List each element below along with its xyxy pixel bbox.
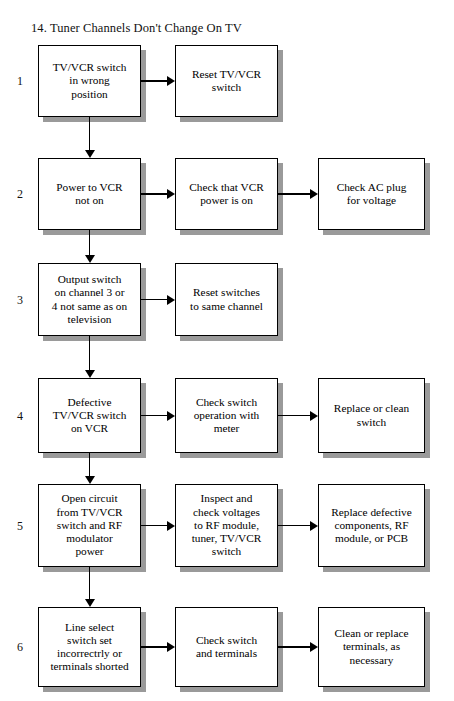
arrow-head-right — [167, 642, 175, 652]
arrow-connector-horizontal — [141, 80, 168, 82]
remedy-box-label: Clean or replace terminals, as necessary — [331, 627, 411, 667]
check-box-label: Reset switches to same channel — [187, 286, 266, 312]
arrow-connector-vertical — [89, 336, 91, 371]
symptom-box: Open circuit from TV/VCR switch and RF m… — [38, 484, 141, 567]
symptom-box: Defective TV/VCR switch on VCR — [38, 378, 141, 453]
check-box-label: Check that VCR power is on — [186, 181, 266, 207]
remedy-box: Replace defective components, RF module,… — [318, 484, 425, 567]
check-box: Reset switches to same channel — [175, 263, 278, 336]
arrow-head-right — [310, 411, 318, 421]
symptom-box: TV/VCR switch in wrong position — [38, 45, 141, 117]
troubleshooting-flowchart: 14. Tuner Channels Don't Change On TV 1T… — [0, 0, 454, 701]
check-box: Check switch operation with meter — [175, 378, 278, 453]
arrow-head-right — [167, 411, 175, 421]
arrow-head-right — [167, 76, 175, 86]
symptom-box: Output switch on channel 3 or 4 not same… — [38, 263, 141, 336]
symptom-box-label: Power to VCR not on — [53, 181, 125, 207]
row-number-4: 4 — [12, 410, 28, 422]
arrow-connector-vertical — [89, 117, 91, 151]
symptom-box: Power to VCR not on — [38, 158, 141, 230]
arrow-head-down — [85, 599, 95, 607]
arrow-head-right — [167, 521, 175, 531]
arrow-head-right — [310, 642, 318, 652]
arrow-head-right — [167, 295, 175, 305]
arrow-connector-horizontal — [278, 415, 311, 417]
check-box: Check that VCR power is on — [175, 158, 278, 230]
symptom-box: Line select switch set incorrectrly or t… — [38, 607, 141, 687]
arrow-head-down — [85, 255, 95, 263]
symptom-box-label: TV/VCR switch in wrong position — [50, 61, 130, 101]
check-box: Inspect and check voltages to RF module,… — [175, 484, 278, 567]
arrow-connector-horizontal — [141, 646, 168, 648]
arrow-connector-horizontal — [141, 299, 168, 301]
arrow-connector-horizontal — [141, 415, 168, 417]
symptom-box-label: Output switch on channel 3 or 4 not same… — [49, 273, 130, 326]
remedy-box: Clean or replace terminals, as necessary — [318, 607, 425, 687]
arrow-connector-horizontal — [278, 646, 311, 648]
symptom-box-label: Open circuit from TV/VCR switch and RF m… — [53, 492, 125, 558]
row-number-5: 5 — [12, 520, 28, 532]
row-number-6: 6 — [12, 641, 28, 653]
row-number-2: 2 — [12, 188, 28, 200]
check-box: Check switch and terminals — [175, 607, 278, 687]
symptom-box-label: Line select switch set incorrectrly or t… — [47, 621, 131, 674]
check-box: Reset TV/VCR switch — [175, 45, 278, 117]
remedy-box: Check AC plug for voltage — [318, 158, 425, 230]
row-number-1: 1 — [12, 75, 28, 87]
check-box-label: Inspect and check voltages to RF module,… — [189, 492, 265, 558]
arrow-head-down — [85, 370, 95, 378]
row-number-3: 3 — [12, 294, 28, 306]
remedy-box-label: Replace or clean switch — [331, 402, 412, 428]
arrow-head-right — [310, 189, 318, 199]
arrow-connector-horizontal — [278, 525, 311, 527]
arrow-connector-horizontal — [141, 193, 168, 195]
symptom-box-label: Defective TV/VCR switch on VCR — [50, 396, 130, 436]
page-title: 14. Tuner Channels Don't Change On TV — [31, 21, 242, 36]
arrow-connector-vertical — [89, 230, 91, 256]
arrow-head-right — [167, 189, 175, 199]
check-box-label: Check switch operation with meter — [191, 396, 263, 436]
arrow-connector-horizontal — [278, 193, 311, 195]
check-box-label: Reset TV/VCR switch — [189, 68, 264, 94]
arrow-connector-vertical — [89, 453, 91, 477]
arrow-head-right — [310, 521, 318, 531]
check-box-label: Check switch and terminals — [193, 634, 260, 660]
arrow-connector-vertical — [89, 567, 91, 600]
arrow-connector-horizontal — [141, 525, 168, 527]
arrow-head-down — [85, 150, 95, 158]
remedy-box-label: Replace defective components, RF module,… — [328, 506, 415, 546]
arrow-head-down — [85, 476, 95, 484]
remedy-box: Replace or clean switch — [318, 378, 425, 453]
remedy-box-label: Check AC plug for voltage — [334, 181, 410, 207]
